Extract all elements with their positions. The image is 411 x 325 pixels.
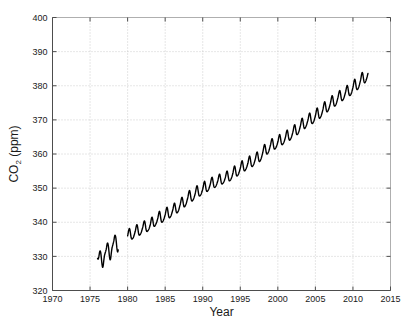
y-tick-label-350: 350 (32, 183, 47, 193)
y-tick-label-380: 380 (32, 81, 47, 91)
x-tick-label-1975: 1975 (80, 294, 100, 304)
x-tick-label-2005: 2005 (305, 294, 325, 304)
y-tick-label-370: 370 (32, 115, 47, 125)
y-tick-label-330: 330 (32, 252, 47, 262)
x-tick-label-1985: 1985 (155, 294, 175, 304)
y-axis-title: CO2 (ppm) (7, 125, 23, 182)
y-tick-label-320: 320 (32, 286, 47, 296)
x-tick-label-1995: 1995 (230, 294, 250, 304)
y-axis-tick-labels: 320330340350360370380390400 (32, 13, 47, 296)
x-tick-label-1990: 1990 (193, 294, 213, 304)
co2-chart-figure: 1970197519801985199019952000200520102015… (0, 0, 411, 325)
y-axis-title-co: CO (7, 165, 21, 183)
y-tick-label-400: 400 (32, 13, 47, 23)
y-tick-label-390: 390 (32, 47, 47, 57)
x-axis-title-text: Year (209, 305, 233, 319)
chart-canvas: 1970197519801985199019952000200520102015… (0, 0, 411, 325)
x-tick-label-2010: 2010 (343, 294, 363, 304)
gridlines (53, 18, 391, 291)
x-tick-label-2000: 2000 (268, 294, 288, 304)
data-line-segment-2 (128, 72, 368, 239)
y-axis-title-text: CO2 (ppm) (7, 125, 23, 182)
data-series-line (98, 72, 368, 267)
data-line-segment-1 (98, 235, 119, 267)
y-axis-title-unit: (ppm) (7, 125, 21, 160)
x-axis-title: Year (209, 305, 233, 319)
x-tick-label-1980: 1980 (118, 294, 138, 304)
x-tick-label-2015: 2015 (380, 294, 400, 304)
x-axis-tick-labels: 1970197519801985199019952000200520102015 (42, 294, 400, 304)
y-tick-label-360: 360 (32, 149, 47, 159)
y-tick-label-340: 340 (32, 217, 47, 227)
